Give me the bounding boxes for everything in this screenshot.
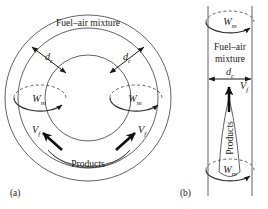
panel-a-products-label: Products bbox=[71, 158, 105, 169]
outer-chamber-circle bbox=[5, 15, 171, 181]
inner-chamber-circle bbox=[45, 55, 131, 141]
panel-a-mixture-label: Fuel–air mixture bbox=[56, 17, 120, 28]
panel-a-dc-label-left: dc bbox=[45, 51, 53, 64]
panel-b-dc-label: dc bbox=[226, 66, 234, 79]
panel-b-key: (b) bbox=[180, 188, 191, 199]
panel-b-wm-label-bottom: Wm bbox=[223, 164, 237, 177]
panel-b-mixture-label-line2: mixture bbox=[215, 53, 245, 64]
panel-b-products-label: Products bbox=[224, 121, 235, 155]
combustion-chamber-figure: Fuel–air mixture dc dc Wm Wm Vf Vf Produ… bbox=[0, 0, 268, 209]
panel-a-wm-label-left: Wm bbox=[32, 93, 46, 106]
panel-a-vf-label-right: Vf bbox=[138, 124, 147, 137]
panel-a-key: (a) bbox=[10, 188, 20, 199]
panel-b-group: Wm Fuel–air mixture dc Vf Products Wm (b… bbox=[180, 6, 254, 199]
panel-b-vf-label: Vf bbox=[240, 80, 249, 93]
panel-a-vf-label-left: Vf bbox=[32, 124, 41, 137]
panel-b-wm-label-top: Wm bbox=[223, 16, 237, 29]
figure-canvas: Fuel–air mixture dc dc Wm Wm Vf Vf Produ… bbox=[0, 0, 268, 209]
panel-a-wm-label-right: Wm bbox=[128, 93, 142, 106]
panel-a-dc-label-right: dc bbox=[123, 51, 131, 64]
vf-arrow-left bbox=[43, 133, 62, 150]
vf-arrow-right bbox=[116, 133, 135, 150]
panel-b-mixture-label-line1: Fuel–air bbox=[214, 41, 247, 52]
panel-a-group: Fuel–air mixture dc dc Wm Wm Vf Vf Produ… bbox=[5, 15, 171, 199]
